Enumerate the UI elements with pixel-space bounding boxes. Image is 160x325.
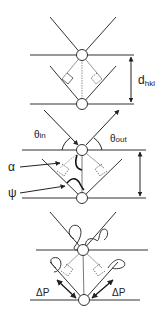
incident-ray <box>50 212 83 250</box>
reflected-ray-lower <box>82 159 122 198</box>
delta-p-label-right: ΔP <box>112 287 126 298</box>
bragg-diffraction-diagram: dhkl θin θout α ψ <box>0 0 160 325</box>
alpha-arc <box>76 155 82 170</box>
reflected-ray-lower <box>82 66 116 104</box>
theta-in-label: θin <box>34 129 46 140</box>
reflected-ray <box>83 212 116 250</box>
theta-out-arc <box>94 138 102 150</box>
incident-beam <box>44 110 78 145</box>
atom <box>77 145 88 156</box>
atom <box>77 99 88 110</box>
delta-p-arrow-right <box>92 280 113 298</box>
dhkl-label: dhkl <box>138 73 155 88</box>
right-angle-marker-right <box>91 73 102 84</box>
atom <box>77 50 88 61</box>
theta-in-arc <box>62 138 70 150</box>
wave-loop-left-lower <box>51 258 61 272</box>
bottom-panel: ΔP ΔP <box>30 212 148 306</box>
top-panel: dhkl <box>30 17 155 110</box>
psi-arc <box>67 179 84 190</box>
alpha-pointer <box>20 163 60 167</box>
incident-ray <box>50 17 82 55</box>
reflected-ray <box>82 17 116 55</box>
atom <box>77 193 88 204</box>
middle-panel: θin θout α ψ <box>8 110 146 204</box>
psi-pointer <box>20 186 65 193</box>
delta-p-arrow-left <box>57 280 76 298</box>
atom <box>78 245 89 256</box>
right-angle-marker-left <box>57 164 69 176</box>
psi-label: ψ <box>8 186 17 200</box>
vertical-normal <box>83 250 84 300</box>
alpha-label: α <box>8 160 15 174</box>
incident-ray-lower <box>50 66 82 104</box>
right-angle-marker-right <box>93 264 105 276</box>
atom <box>79 295 90 306</box>
theta-out-label: θout <box>110 133 127 144</box>
delta-p-label-left: ΔP <box>36 287 50 298</box>
right-angle-marker-left <box>61 264 73 276</box>
